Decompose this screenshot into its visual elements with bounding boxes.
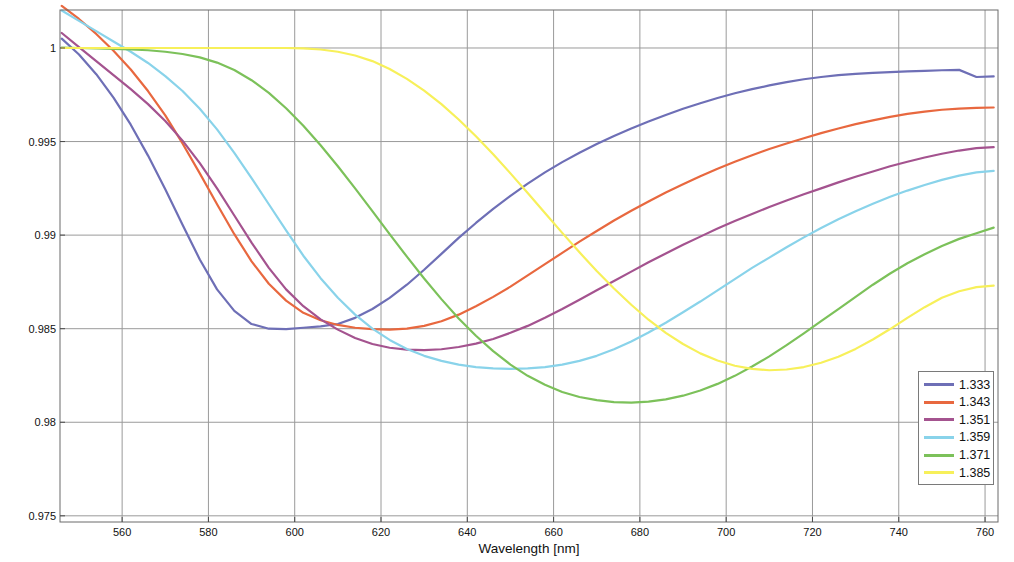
legend-item[interactable]: 1.351: [923, 411, 989, 429]
legend-item-label: 1.333: [959, 379, 990, 392]
x-axis-label: Wavelength [nm]: [60, 541, 998, 556]
chart-figure: 0.9750.980.9850.990.9951 560580600620640…: [0, 0, 1014, 562]
x-tick-label: 740: [890, 526, 908, 538]
legend-swatch-icon: [924, 401, 954, 404]
legend-swatch-icon: [924, 471, 954, 474]
y-axis-label: Normalized Transmitted Light Intensity: [2, 0, 24, 84]
legend-item[interactable]: 1.385: [923, 464, 989, 482]
legend: 1.3331.3431.3511.3591.3711.385: [918, 371, 994, 485]
legend-item-label: 1.359: [959, 431, 990, 444]
x-tick-label: 640: [458, 526, 476, 538]
x-tick-label: 680: [631, 526, 649, 538]
legend-swatch-icon: [924, 436, 954, 439]
legend-item-label: 1.385: [959, 467, 990, 480]
x-tick-label: 580: [199, 526, 217, 538]
legend-swatch-icon: [924, 454, 954, 457]
legend-item[interactable]: 1.371: [923, 446, 989, 464]
legend-swatch-icon: [924, 383, 954, 386]
x-tick-label: 700: [717, 526, 735, 538]
x-tick-label: 620: [372, 526, 390, 538]
x-tick-label: 760: [976, 526, 994, 538]
y-axis-label-wrap: Normalized Transmitted Light Intensity: [0, 62, 22, 522]
x-axis-ticks: 560580600620640660680700720740760: [0, 0, 1014, 562]
x-tick-label: 660: [544, 526, 562, 538]
x-tick-label: 720: [803, 526, 821, 538]
legend-swatch-icon: [924, 418, 954, 421]
legend-item-label: 1.351: [959, 414, 990, 427]
legend-item[interactable]: 1.333: [923, 376, 989, 394]
legend-item[interactable]: 1.343: [923, 394, 989, 412]
legend-item-label: 1.371: [959, 449, 990, 462]
x-tick-label: 560: [113, 526, 131, 538]
x-tick-label: 600: [286, 526, 304, 538]
legend-item-label: 1.343: [959, 396, 990, 409]
legend-item[interactable]: 1.359: [923, 429, 989, 447]
